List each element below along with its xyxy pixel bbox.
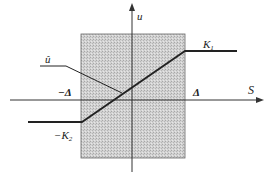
k2-label: −K2 [54, 129, 73, 143]
u-axis-arrow-icon [129, 3, 135, 11]
k1-subscript: 1 [210, 44, 214, 52]
s-axis-arrow-icon [256, 97, 264, 103]
neg-delta-label: −Δ [58, 86, 72, 98]
boundary-layer-band [81, 34, 185, 158]
u-hat-label: û [45, 53, 51, 65]
k2-main: −K [54, 129, 69, 141]
k2-subscript: 2 [69, 135, 73, 143]
pos-delta-label: Δ [192, 86, 200, 98]
u-axis-label: u [137, 10, 143, 22]
s-axis-label: S [248, 83, 254, 97]
k1-label: K1 [202, 38, 214, 52]
diagram-canvas: u S û K1 −K2 −Δ Δ [0, 0, 268, 181]
